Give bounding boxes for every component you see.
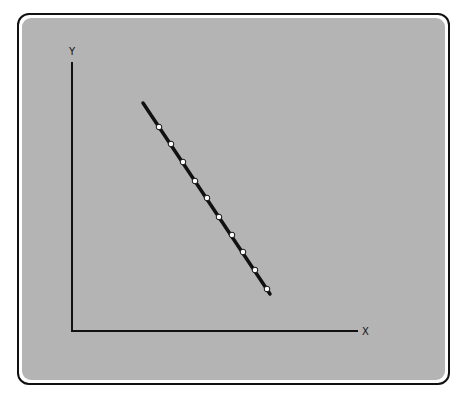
data-point bbox=[216, 214, 222, 220]
data-point bbox=[156, 124, 162, 130]
scatter-plot: Y X bbox=[0, 0, 462, 397]
data-point bbox=[229, 232, 235, 238]
data-point bbox=[252, 267, 258, 273]
data-point bbox=[264, 286, 270, 292]
data-point bbox=[192, 178, 198, 184]
x-axis-label: X bbox=[362, 326, 369, 337]
data-point bbox=[168, 141, 174, 147]
data-point bbox=[180, 159, 186, 165]
data-point bbox=[240, 249, 246, 255]
y-axis-label: Y bbox=[68, 46, 76, 57]
data-point bbox=[204, 195, 210, 201]
